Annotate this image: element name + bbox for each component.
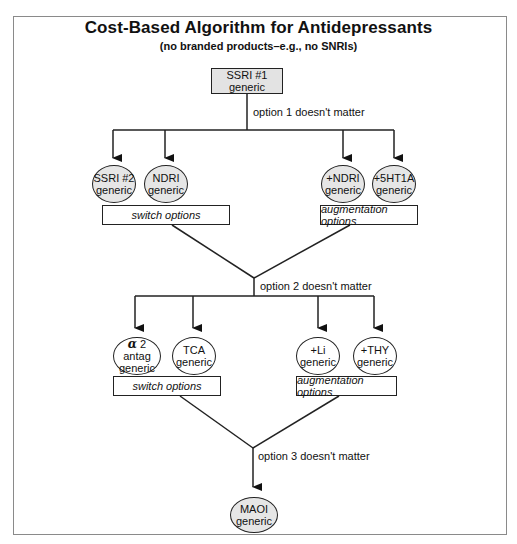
node-line1: TCA bbox=[183, 344, 205, 356]
start-node-ssri1: SSRI #1 generic bbox=[211, 68, 283, 94]
alpha-symbol-icon: α bbox=[128, 337, 137, 351]
node-line1: SSRI #2 bbox=[94, 172, 135, 184]
node-tca: TCA generic bbox=[172, 337, 216, 375]
node-plus-li: +Li generic bbox=[296, 337, 340, 375]
node-line1: +NDRI bbox=[326, 172, 359, 184]
option2-label: option 2 doesn't matter bbox=[260, 280, 372, 292]
node-plus-5ht1a: +5HT1A generic bbox=[372, 165, 416, 203]
node-line2: generic bbox=[176, 356, 212, 368]
node-ssri2: SSRI #2 generic bbox=[92, 165, 136, 203]
node-alpha2-antag: α 2 antag generic bbox=[113, 337, 161, 375]
switch-options-box-1: switch options bbox=[102, 205, 230, 225]
augmentation-options-box-1: augmentation options bbox=[320, 205, 418, 225]
node-line2: generic bbox=[96, 184, 132, 196]
node-line1: +Li bbox=[311, 344, 326, 356]
option1-label: option 1 doesn't matter bbox=[253, 106, 365, 118]
node-line2: generic bbox=[119, 362, 155, 374]
node-line1: +5HT1A bbox=[374, 172, 415, 184]
node-plus-ndri: +NDRI generic bbox=[321, 165, 365, 203]
augmentation-options-box-2: augmentation options bbox=[296, 376, 397, 396]
node-plus-thy: +THY generic bbox=[353, 337, 397, 375]
node-line1: +THY bbox=[361, 344, 389, 356]
node-line1: MAOI bbox=[240, 503, 268, 515]
node-line1: NDRI bbox=[153, 172, 180, 184]
option3-label: option 3 doesn't matter bbox=[258, 450, 370, 462]
node-line2: generic bbox=[148, 184, 184, 196]
node-line2: generic bbox=[300, 356, 336, 368]
node-line2: generic bbox=[376, 184, 412, 196]
node-maoi: MAOI generic bbox=[230, 497, 278, 533]
switch-options-box-2: switch options bbox=[113, 376, 221, 396]
node-line2: generic bbox=[236, 515, 272, 527]
node-line2: generic bbox=[357, 356, 393, 368]
node-line1: α 2 antag bbox=[114, 338, 160, 362]
node-line1: SSRI #1 bbox=[227, 69, 268, 81]
node-line2: generic bbox=[229, 81, 265, 93]
node-ndri: NDRI generic bbox=[144, 165, 188, 203]
node-line2: generic bbox=[325, 184, 361, 196]
